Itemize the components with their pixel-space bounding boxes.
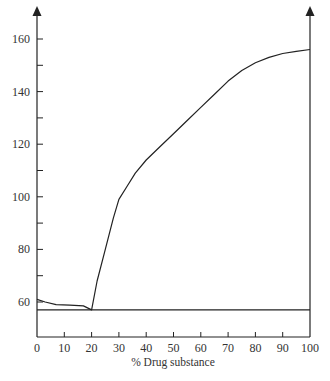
y-tick-label: 60 [18, 295, 30, 309]
x-tick-label: 70 [222, 341, 234, 355]
x-tick-label: 20 [86, 341, 98, 355]
left-axis-arrow-icon [33, 6, 42, 16]
y-tick-label: 80 [18, 242, 30, 256]
x-tick-label: 30 [113, 341, 125, 355]
y-axis-ticks: 6080100120140160 [12, 32, 43, 309]
y-tick-label: 160 [12, 32, 30, 46]
chart: 6080100120140160 0102030405060708090100 … [0, 0, 330, 381]
x-tick-label: 40 [140, 341, 152, 355]
y-tick-label: 120 [12, 137, 30, 151]
x-tick-label: 90 [277, 341, 289, 355]
x-tick-label: 80 [249, 341, 261, 355]
right-axis-arrow-icon [306, 6, 315, 16]
y-tick-label: 100 [12, 190, 30, 204]
curve-line [37, 50, 310, 310]
y-tick-label: 140 [12, 85, 30, 99]
x-axis-label: % Drug substance [131, 356, 215, 369]
x-tick-label: 10 [58, 341, 70, 355]
x-tick-label: 0 [34, 341, 40, 355]
x-tick-label: 60 [195, 341, 207, 355]
x-axis-ticks: 0102030405060708090100 [34, 332, 319, 355]
x-tick-label: 100 [301, 341, 319, 355]
data-series [37, 50, 310, 310]
x-tick-label: 50 [168, 341, 180, 355]
